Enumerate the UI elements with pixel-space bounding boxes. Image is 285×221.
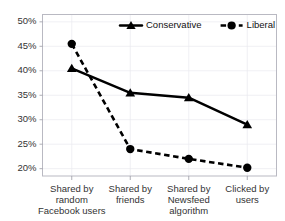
legend-label: Conservative	[146, 19, 201, 30]
y-tick-label: 40%	[17, 64, 37, 75]
y-tick-label: 25%	[17, 138, 37, 149]
y-tick-label: 20%	[17, 162, 37, 173]
y-tick-label: 45%	[17, 40, 37, 51]
x-tick-label-line: Clicked by	[225, 183, 269, 194]
data-point-marker-circle	[243, 163, 251, 171]
x-tick-label-group: Shared byNewsfeedalgorithm	[167, 183, 211, 216]
data-point-marker-circle	[68, 40, 76, 48]
x-tick-label-line: users	[236, 194, 259, 205]
x-tick-label-line: friends	[116, 194, 145, 205]
line-chart: 50%45%40%35%30%25%20% ConservativeLibera…	[0, 0, 285, 221]
x-tick-label-line: Shared by	[50, 183, 94, 194]
y-tick-label: 35%	[17, 89, 37, 100]
data-point-marker-circle	[185, 155, 193, 163]
chart-canvas: 50%45%40%35%30%25%20% ConservativeLibera…	[0, 0, 285, 221]
legend-marker-circle	[228, 21, 236, 29]
x-tick-label-line: Shared by	[109, 183, 153, 194]
legend-label: Liberal	[247, 19, 276, 30]
y-tick-label: 50%	[17, 15, 37, 26]
x-tick-label-line: Facebook users	[38, 205, 106, 216]
x-tick-label-line: Shared by	[167, 183, 211, 194]
x-tick-label-line: algorithm	[169, 205, 208, 216]
y-tick-label: 30%	[17, 113, 37, 124]
x-tick-label-line: Newsfeed	[168, 194, 210, 205]
data-point-marker-circle	[126, 145, 134, 153]
x-tick-label-line: random	[56, 194, 88, 205]
